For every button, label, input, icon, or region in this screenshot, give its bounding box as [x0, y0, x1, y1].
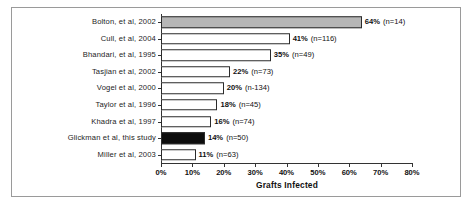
- category-label: Glickman et al, this study: [68, 134, 156, 142]
- x-axis-tick-label: 40%: [279, 169, 294, 177]
- bar-row: Tasjian et al, 200222%(n=73): [161, 64, 412, 80]
- x-axis-tick-label: 50%: [310, 169, 325, 177]
- x-axis-tick: [224, 163, 225, 167]
- bar: [161, 132, 205, 144]
- bar-percent-value: 35%: [274, 51, 289, 60]
- x-axis-tick-label: 60%: [342, 169, 357, 177]
- x-axis-tick-label: 30%: [248, 169, 263, 177]
- bar: [161, 149, 196, 161]
- category-label: Taylor et al, 1996: [95, 101, 156, 109]
- bar-sample-size: (n=45): [239, 100, 261, 109]
- category-label: Miller et al, 2003: [98, 151, 156, 159]
- bar-percent-value: 16%: [214, 117, 229, 126]
- category-label: Bhandari, et al, 1995: [83, 52, 156, 60]
- x-axis-tick: [412, 163, 413, 167]
- bar-row: Khadra et al, 199716%(n=74): [161, 113, 412, 129]
- bar: [161, 33, 290, 45]
- x-axis-tick-label: 80%: [404, 169, 419, 177]
- bar: [161, 83, 224, 95]
- bar-percent-value: 11%: [199, 150, 214, 159]
- x-axis-tick-label: 0%: [156, 169, 167, 177]
- bar: [161, 116, 211, 128]
- bar-row: Miller et al, 200311%(n=63): [161, 146, 412, 162]
- category-label: Cull, et al, 2004: [101, 35, 156, 43]
- bar-value-label: 20%(n-134): [227, 85, 270, 93]
- x-axis-tick-label: 10%: [185, 169, 200, 177]
- bar-row: Taylor et al, 199618%(n=45): [161, 97, 412, 113]
- bar-value-label: 22%(n=73): [233, 68, 273, 76]
- x-axis-title-text: Grafts Infected: [256, 180, 318, 190]
- x-axis-tick: [255, 163, 256, 167]
- bar-percent-value: 41%: [293, 34, 308, 43]
- bar-sample-size: (n=116): [311, 34, 337, 43]
- bar-row: Cull, et al, 200441%(n=116): [161, 31, 412, 47]
- plot-area: Bolton, et al, 200264%(n=14)Cull, et al,…: [161, 14, 412, 163]
- category-label: Khadra et al, 1997: [91, 118, 156, 126]
- bar: [161, 99, 217, 111]
- x-axis-tick: [192, 163, 193, 167]
- x-axis-tick: [381, 163, 382, 167]
- bar-sample-size: (n=49): [292, 51, 314, 60]
- x-axis-tick-label: 70%: [373, 169, 388, 177]
- x-axis-tick: [318, 163, 319, 167]
- bar-value-label: 41%(n=116): [293, 35, 337, 43]
- x-axis-title: Grafts Infected: [0, 180, 474, 190]
- x-axis-tick: [287, 163, 288, 167]
- bar-percent-value: 20%: [227, 84, 242, 93]
- bar-row: Vogel et al, 200020%(n-134): [161, 80, 412, 96]
- category-label: Tasjian et al, 2002: [92, 68, 156, 76]
- bar-row: Bhandari, et al, 199535%(n=49): [161, 47, 412, 63]
- bar-sample-size: (n=63): [216, 150, 238, 159]
- category-label: Vogel et al, 2000: [97, 85, 156, 93]
- bar-percent-value: 14%: [208, 133, 223, 142]
- bar-sample-size: (n=74): [232, 117, 254, 126]
- bar: [161, 16, 362, 28]
- bar: [161, 50, 271, 62]
- bar: [161, 66, 230, 78]
- x-axis-tick-label: 20%: [216, 169, 231, 177]
- bar-value-label: 18%(n=45): [220, 101, 260, 109]
- bar-row: Glickman et al, this study14%(n=50): [161, 130, 412, 146]
- bar-value-label: 35%(n=49): [274, 52, 314, 60]
- bar-value-label: 14%(n=50): [208, 134, 248, 142]
- bar-row: Bolton, et al, 200264%(n=14): [161, 14, 412, 30]
- category-label: Bolton, et al, 2002: [92, 18, 156, 26]
- x-axis-tick: [349, 163, 350, 167]
- bar-percent-value: 18%: [220, 100, 235, 109]
- x-axis-tick: [161, 163, 162, 167]
- bar-percent-value: 22%: [233, 67, 248, 76]
- bar-value-label: 11%(n=63): [199, 151, 239, 159]
- bar-sample-size: (n=14): [383, 17, 405, 26]
- bar-sample-size: (n=50): [226, 133, 248, 142]
- bar-value-label: 16%(n=74): [214, 118, 254, 126]
- bar-percent-value: 64%: [365, 17, 380, 26]
- bar-sample-size: (n=73): [251, 67, 273, 76]
- bar-value-label: 64%(n=14): [365, 18, 405, 26]
- bar-sample-size: (n-134): [245, 84, 269, 93]
- chart-figure: Bolton, et al, 200264%(n=14)Cull, et al,…: [0, 0, 474, 212]
